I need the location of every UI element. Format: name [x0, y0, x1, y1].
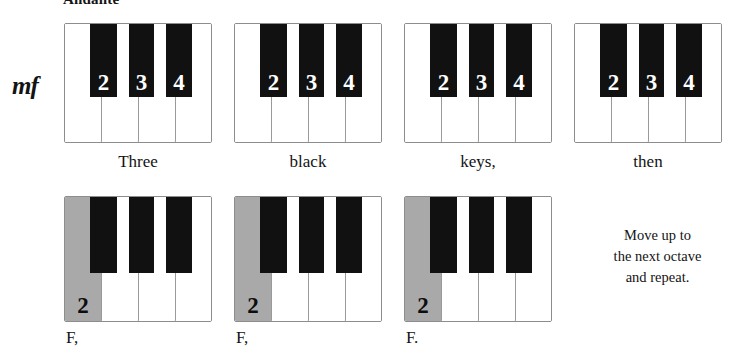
- keyboard-caption-1: Three: [64, 153, 212, 170]
- piano-exercise-page: Andante mf 2 3 4 Three 2 3 4 black: [0, 0, 732, 363]
- black-key-label-2: 3: [469, 71, 494, 94]
- keyboard-caption-6: F,: [236, 329, 296, 346]
- black-key-label-2: 3: [299, 71, 324, 94]
- tempo-marking: Andante: [63, 0, 119, 8]
- black-key-3[interactable]: 4: [336, 23, 362, 97]
- black-key-label-1: 2: [430, 71, 457, 94]
- keyboard-caption-2: black: [234, 153, 382, 170]
- black-key-3[interactable]: [166, 196, 192, 273]
- keyboard-figure-1: 2 3 4 Three: [64, 23, 212, 143]
- white-key-label-1: 2: [65, 294, 101, 317]
- instruction-note-line-2: the next octave: [583, 246, 732, 267]
- keyboard-figure-7: 2 F.: [404, 196, 552, 322]
- dynamic-marking-mf: mf: [12, 72, 38, 100]
- black-key-2[interactable]: 3: [299, 23, 324, 97]
- white-key-label-1: 2: [235, 294, 271, 317]
- black-key-label-1: 2: [90, 71, 117, 94]
- black-key-label-3: 4: [166, 71, 192, 94]
- black-key-1[interactable]: 2: [260, 23, 287, 97]
- keyboard-diagram-5[interactable]: 2: [64, 196, 212, 322]
- black-key-1[interactable]: [260, 196, 287, 273]
- black-key-3[interactable]: 4: [506, 23, 532, 97]
- keyboard-caption-7: F.: [406, 329, 466, 346]
- black-key-label-3: 4: [336, 71, 362, 94]
- black-key-label-3: 4: [506, 71, 532, 94]
- keyboard-caption-5: F,: [66, 329, 126, 346]
- keyboard-figure-2: 2 3 4 black: [234, 23, 382, 143]
- keyboard-caption-4: then: [574, 153, 722, 170]
- keyboard-caption-3: keys,: [404, 153, 552, 170]
- instruction-note: Move up to the next octave and repeat.: [583, 225, 732, 288]
- black-key-3[interactable]: [506, 196, 532, 273]
- black-key-3[interactable]: 4: [676, 23, 702, 97]
- instruction-note-line-1: Move up to: [583, 225, 732, 246]
- black-key-2[interactable]: 3: [639, 23, 664, 97]
- keyboard-figure-6: 2 F,: [234, 196, 382, 322]
- white-key-label-1: 2: [405, 294, 441, 317]
- black-key-2[interactable]: [469, 196, 494, 273]
- keyboard-diagram-7[interactable]: 2: [404, 196, 552, 322]
- black-key-label-1: 2: [600, 71, 627, 94]
- black-key-2[interactable]: 3: [129, 23, 154, 97]
- black-key-2[interactable]: [129, 196, 154, 273]
- keyboard-diagram-2[interactable]: 2 3 4: [234, 23, 382, 143]
- black-key-1[interactable]: [90, 196, 117, 273]
- keyboard-diagram-6[interactable]: 2: [234, 196, 382, 322]
- black-key-1[interactable]: 2: [430, 23, 457, 97]
- black-key-1[interactable]: 2: [600, 23, 627, 97]
- black-key-2[interactable]: 3: [469, 23, 494, 97]
- keyboard-diagram-4[interactable]: 2 3 4: [574, 23, 722, 143]
- black-key-label-2: 3: [639, 71, 664, 94]
- black-key-3[interactable]: 4: [166, 23, 192, 97]
- instruction-note-line-3: and repeat.: [583, 267, 732, 288]
- keyboard-figure-4: 2 3 4 then: [574, 23, 722, 143]
- keyboard-figure-3: 2 3 4 keys,: [404, 23, 552, 143]
- keyboard-diagram-1[interactable]: 2 3 4: [64, 23, 212, 143]
- keyboard-diagram-3[interactable]: 2 3 4: [404, 23, 552, 143]
- keyboard-figure-5: 2 F,: [64, 196, 212, 322]
- black-key-3[interactable]: [336, 196, 362, 273]
- black-key-2[interactable]: [299, 196, 324, 273]
- black-key-label-3: 4: [676, 71, 702, 94]
- black-key-1[interactable]: 2: [90, 23, 117, 97]
- black-key-label-1: 2: [260, 71, 287, 94]
- black-key-label-2: 3: [129, 71, 154, 94]
- black-key-1[interactable]: [430, 196, 457, 273]
